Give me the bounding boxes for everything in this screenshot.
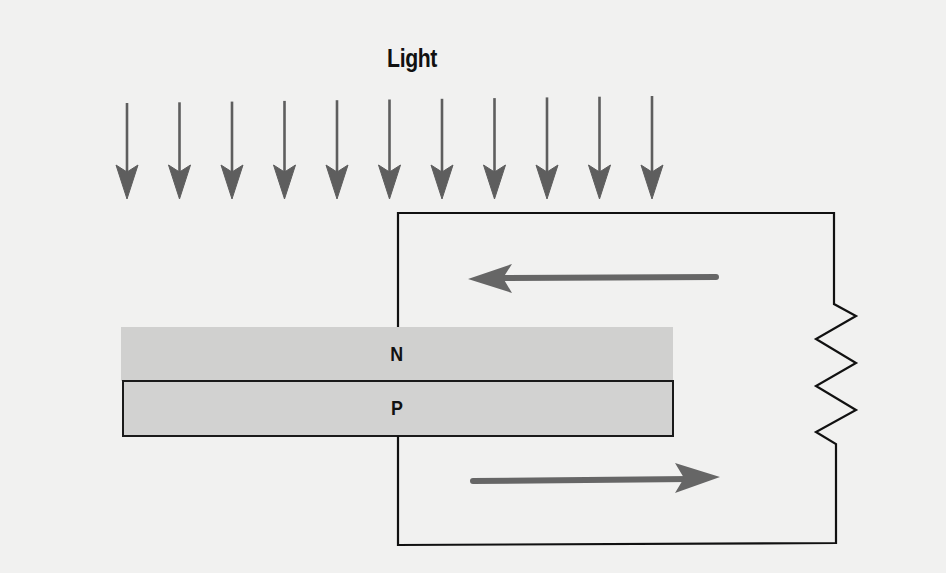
light-label: Light: [370, 44, 455, 73]
n-layer-label: N: [390, 342, 403, 366]
light-ray-arrow: [641, 96, 663, 199]
light-ray-arrow: [484, 98, 506, 199]
light-rays: [116, 96, 663, 199]
light-ray-arrow: [431, 99, 453, 199]
light-ray-arrow: [589, 97, 611, 199]
light-ray-arrow: [221, 102, 243, 199]
current-arrow-right: [473, 463, 720, 493]
pn-junction-diagram: Light N P: [0, 0, 946, 573]
light-ray-arrow: [169, 102, 191, 199]
light-ray-arrow: [326, 100, 348, 199]
light-ray-arrow: [536, 97, 558, 199]
diagram-canvas: [0, 0, 946, 573]
light-ray-arrow: [379, 100, 401, 200]
light-ray-arrow: [274, 101, 296, 199]
p-layer-label: P: [391, 396, 403, 420]
current-arrow-left: [468, 264, 716, 293]
light-ray-arrow: [116, 103, 138, 199]
